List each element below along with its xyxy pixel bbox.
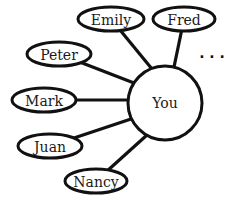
you-label: You <box>151 95 177 111</box>
node-fred: Fred <box>153 7 215 31</box>
node-emily: Emily <box>78 7 144 31</box>
node-peter: Peter <box>27 42 91 66</box>
node-label: Nancy <box>73 174 118 190</box>
node-mark: Mark <box>12 88 76 112</box>
node-nancy: Nancy <box>65 169 127 193</box>
social-network-diagram: EmilyFredPeterMarkJuanNancy You · · · <box>0 0 229 204</box>
more-ellipsis: · · · <box>199 49 225 65</box>
node-juan: Juan <box>18 134 82 158</box>
center-node: You <box>128 66 202 140</box>
node-label: Emily <box>91 12 131 28</box>
node-label: Fred <box>167 12 201 28</box>
node-label: Juan <box>32 139 66 155</box>
node-label: Peter <box>40 47 78 63</box>
node-label: Mark <box>25 93 63 109</box>
